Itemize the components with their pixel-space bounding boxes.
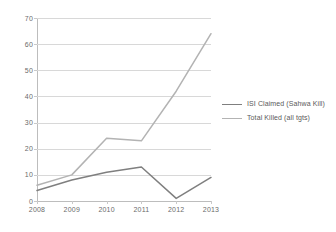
y-tick-label-10: 10 xyxy=(3,171,33,178)
y-tick-mark-40 xyxy=(34,96,37,97)
y-tick-mark-70 xyxy=(34,18,37,19)
y-tick-mark-50 xyxy=(34,70,37,71)
legend-item-isi-claimed[interactable]: ISI Claimed (Sahwa Kill) xyxy=(222,97,334,111)
x-tick-mark-2012 xyxy=(176,201,177,204)
chart-legend: ISI Claimed (Sahwa Kill) Total Killed (a… xyxy=(222,97,334,125)
y-tick-mark-60 xyxy=(34,44,37,45)
x-tick-mark-2009 xyxy=(72,201,73,204)
x-tick-label-2010: 2010 xyxy=(92,206,122,213)
y-tick-label-20: 20 xyxy=(3,145,33,152)
x-tick-label-2013: 2013 xyxy=(196,206,226,213)
plot-area xyxy=(37,18,211,201)
x-tick-label-2012: 2012 xyxy=(161,206,191,213)
y-tick-label-60: 60 xyxy=(3,41,33,48)
series-lines xyxy=(37,18,211,201)
series-line-total-killed xyxy=(37,34,211,186)
legend-label-isi-claimed: ISI Claimed (Sahwa Kill) xyxy=(247,100,325,108)
x-axis-line xyxy=(37,201,212,202)
x-tick-mark-2010 xyxy=(107,201,108,204)
y-tick-mark-20 xyxy=(34,149,37,150)
x-tick-label-2008: 2008 xyxy=(22,206,52,213)
legend-swatch-total-killed xyxy=(222,118,242,119)
y-tick-label-40: 40 xyxy=(3,93,33,100)
y-tick-mark-30 xyxy=(34,123,37,124)
x-axis-tick-labels: 200820092010201120122013 xyxy=(37,206,212,220)
x-tick-label-2009: 2009 xyxy=(57,206,87,213)
x-tick-mark-2008 xyxy=(37,201,38,204)
legend-item-total-killed[interactable]: Total Killed (all tgts) xyxy=(222,111,334,125)
y-tick-label-30: 30 xyxy=(3,119,33,126)
x-tick-label-2011: 2011 xyxy=(126,206,156,213)
series-line-isi-claimed xyxy=(37,167,211,198)
legend-label-total-killed: Total Killed (all tgts) xyxy=(247,114,310,122)
y-tick-mark-10 xyxy=(34,175,37,176)
legend-swatch-isi-claimed xyxy=(222,104,242,105)
x-tick-mark-2011 xyxy=(141,201,142,204)
x-tick-mark-2013 xyxy=(211,201,212,204)
y-tick-label-50: 50 xyxy=(3,67,33,74)
y-tick-label-70: 70 xyxy=(3,15,33,22)
y-axis-tick-labels: 010203040506070 xyxy=(0,18,33,201)
y-tick-label-0: 0 xyxy=(3,198,33,205)
line-chart: 010203040506070 200820092010201120122013… xyxy=(0,0,336,232)
